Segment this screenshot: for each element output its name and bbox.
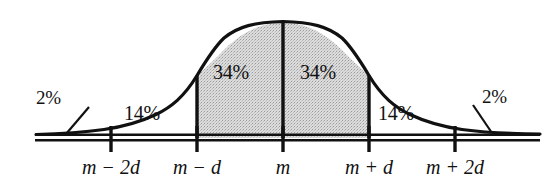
leader-line-right-2pct [473, 105, 492, 133]
leader-line-left-2pct [66, 107, 89, 134]
axis-label-m-plus-d: m + d [345, 157, 393, 177]
normal-distribution-figure: 2% 14% 34% 34% 14% 2% m − 2d m − d m m +… [0, 0, 553, 184]
region-label-left-34pct: 34% [213, 62, 249, 82]
axis-label-m-minus-d: m − d [173, 157, 221, 177]
region-label-left-tail-2pct: 2% [36, 88, 61, 107]
region-label-right-14pct: 14% [378, 103, 414, 123]
region-label-right-34pct: 34% [300, 62, 336, 82]
region-label-left-14pct: 14% [124, 103, 160, 123]
axis-label-m-plus-2d: m + 2d [426, 157, 484, 177]
region-label-right-tail-2pct: 2% [482, 87, 507, 106]
axis-label-m-minus-2d: m − 2d [82, 157, 140, 177]
axis-label-m: m [276, 157, 290, 177]
